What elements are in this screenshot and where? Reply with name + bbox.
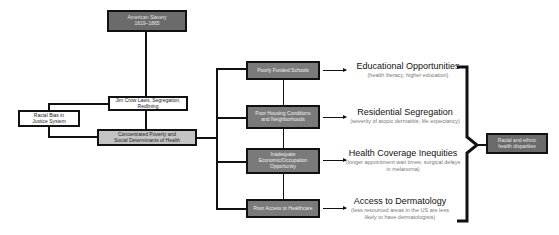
link-schools-housing [283,80,284,105]
racial-bias-label-2: Justice System [32,119,66,125]
outcome-detail: (longer appointment wait times; surgical… [344,159,462,173]
factor-poor-housing: Poor Housing Conditions and Neighborhood… [246,105,320,129]
connector-bias-poverty-h [48,136,98,138]
factor-label: Inadequate Economic/Occupation Opportuni… [254,152,312,169]
branch-economic [216,161,246,163]
outcome-detail: (less resourced areas in the US are less… [350,207,450,221]
connector-jimcrow-poverty [145,111,147,130]
branch-housing [216,117,246,119]
jim-crow-box: Jim Crow Laws, Segregation, Redlining [108,96,188,111]
outcome-title: Health Coverage Inequities [344,148,462,158]
outcome-dermatology: Access to Dermatology (less resourced ar… [350,196,450,221]
connector-root-jimcrow [145,32,147,97]
racial-bias-box: Racial Bias in Justice System [18,110,80,127]
jim-crow-label-2: Redlining [138,104,159,110]
outcome-residential: Residential Segregation (severity of ato… [350,107,460,125]
factor-inadequate-economic: Inadequate Economic/Occupation Opportuni… [246,148,320,174]
arrow-to-residential [323,117,346,118]
factor-trunk [216,68,218,210]
arrow-to-dermatology [323,208,346,209]
connector-jimcrow-bias-h [48,103,108,105]
health-disparities-box: Racial and ethnic health disparities [486,133,548,154]
factor-label: Poorly Funded Schools [257,68,309,74]
connector-poverty-trunk [197,137,217,139]
factor-label: Poor Housing Conditions and Neighborhood… [254,111,312,123]
link-housing-economic [283,129,284,148]
branch-schools [216,68,246,70]
factor-label: Poor Access to Healthcare [254,206,313,212]
outcome-title: Access to Dermatology [350,196,450,206]
factor-poor-access-healthcare: Poor Access to Healthcare [246,199,320,218]
health-disparities-label: Racial and ethnic health disparities [493,138,541,150]
outcome-title: Residential Segregation [350,107,460,117]
arrow-to-coverage [323,160,346,161]
outcome-detail: (severity of atopic dermatitis; life exp… [350,118,460,125]
american-slavery-box: American Slavery 1619–1865 [107,10,187,32]
poverty-box: Concentrated Poverty and Social Determin… [97,129,197,146]
link-economic-healthcare [283,174,284,199]
american-slavery-years: 1619–1865 [134,21,159,27]
outcome-coverage: Health Coverage Inequities (longer appoi… [344,148,462,173]
branch-healthcare [216,208,246,210]
poverty-label-2: Social Determinants of Health [114,138,180,144]
factor-poorly-funded-schools: Poorly Funded Schools [246,61,320,80]
